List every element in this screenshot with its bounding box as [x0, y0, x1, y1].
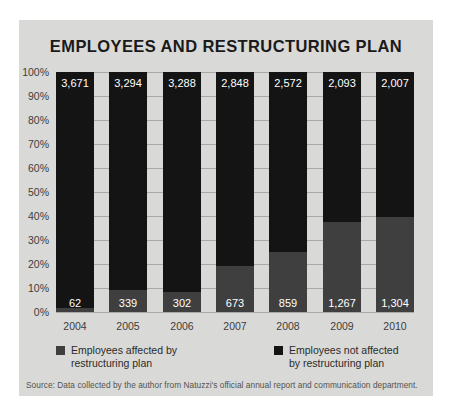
bar-column[interactable]: 2,0931,2672009: [323, 72, 361, 312]
bar-value-label-not-affected: 3,288: [163, 77, 201, 89]
legend-swatch-icon: [56, 346, 65, 355]
bar-value-label-not-affected: 2,572: [269, 77, 307, 89]
y-axis-tick-label: 70%: [28, 138, 49, 150]
x-axis-tick-label: 2007: [216, 320, 254, 332]
y-axis-tick-label: 100%: [22, 66, 49, 78]
legend-label: Employees not affected by restructuring …: [289, 344, 409, 369]
y-axis-tick-label: 60%: [28, 162, 49, 174]
bar-segment-affected[interactable]: 1,304: [376, 217, 414, 312]
x-axis-tick-label: 2010: [376, 320, 414, 332]
y-axis-tick-label: 10%: [28, 282, 49, 294]
bar-segment-affected[interactable]: 673: [216, 266, 254, 312]
bar-value-label-not-affected: 2,093: [323, 77, 361, 89]
plot-area: 100%90%80%70%60%50%40%30%20%10%0% 3,6716…: [56, 72, 414, 312]
bar-segment-not-affected[interactable]: 3,671: [56, 72, 94, 308]
legend-item[interactable]: Employees affected by restructuring plan: [56, 344, 191, 369]
x-axis-tick-label: 2005: [109, 320, 147, 332]
bar-value-label-affected: 339: [109, 297, 147, 309]
bar-segment-not-affected[interactable]: 2,572: [269, 72, 307, 252]
bar-value-label-affected: 859: [269, 297, 307, 309]
chart-figure: EMPLOYEES AND RESTRUCTURING PLAN 100%90%…: [19, 20, 433, 396]
bar-segment-affected[interactable]: 859: [269, 252, 307, 312]
bar-column[interactable]: 3,671622004: [56, 72, 94, 312]
bar-segment-not-affected[interactable]: 3,294: [109, 72, 147, 290]
bar-value-label-affected: 1,267: [323, 297, 361, 309]
x-axis-tick-label: 2008: [269, 320, 307, 332]
x-axis-tick-label: 2004: [56, 320, 94, 332]
bar-segment-affected[interactable]: 302: [163, 292, 201, 312]
bar-value-label-affected: 302: [163, 297, 201, 309]
source-note: Source: Data collected by the author fro…: [26, 380, 426, 390]
bar-segment-affected[interactable]: 1,267: [323, 222, 361, 312]
bar-value-label-not-affected: 3,671: [56, 77, 94, 89]
bar-column[interactable]: 3,2883022006: [163, 72, 201, 312]
legend-label: Employees affected by restructuring plan: [71, 344, 191, 369]
gridline: [56, 312, 414, 313]
legend-item[interactable]: Employees not affected by restructuring …: [274, 344, 409, 369]
y-axis-tick-label: 30%: [28, 234, 49, 246]
bar-segment-not-affected[interactable]: 2,848: [216, 72, 254, 266]
y-axis-tick-label: 0%: [34, 306, 49, 318]
x-axis-tick-label: 2006: [163, 320, 201, 332]
bar-value-label-not-affected: 2,007: [376, 77, 414, 89]
page-title: EMPLOYEES AND RESTRUCTURING PLAN: [19, 37, 433, 56]
bar-segment-affected[interactable]: 62: [56, 308, 94, 312]
y-axis-tick-label: 50%: [28, 186, 49, 198]
bar-column[interactable]: 2,8486732007: [216, 72, 254, 312]
bar-segment-not-affected[interactable]: 2,007: [376, 72, 414, 217]
legend-swatch-icon: [274, 346, 283, 355]
y-axis-tick-label: 80%: [28, 114, 49, 126]
x-axis-tick-label: 2009: [323, 320, 361, 332]
y-axis-tick-label: 20%: [28, 258, 49, 270]
bar-column[interactable]: 3,2943392005: [109, 72, 147, 312]
bar-value-label-not-affected: 3,294: [109, 77, 147, 89]
bar-segment-not-affected[interactable]: 3,288: [163, 72, 201, 292]
bar-segment-affected[interactable]: 339: [109, 290, 147, 312]
y-axis-tick-label: 40%: [28, 210, 49, 222]
bar-column[interactable]: 2,5728592008: [269, 72, 307, 312]
bar-value-label-affected: 673: [216, 297, 254, 309]
y-axis-tick-label: 90%: [28, 90, 49, 102]
bar-column[interactable]: 2,0071,3042010: [376, 72, 414, 312]
bar-segment-not-affected[interactable]: 2,093: [323, 72, 361, 222]
chart-legend: Employees affected by restructuring plan…: [56, 344, 416, 378]
bar-value-label-affected: 62: [56, 297, 94, 309]
bar-value-label-not-affected: 2,848: [216, 77, 254, 89]
bar-value-label-affected: 1,304: [376, 297, 414, 309]
